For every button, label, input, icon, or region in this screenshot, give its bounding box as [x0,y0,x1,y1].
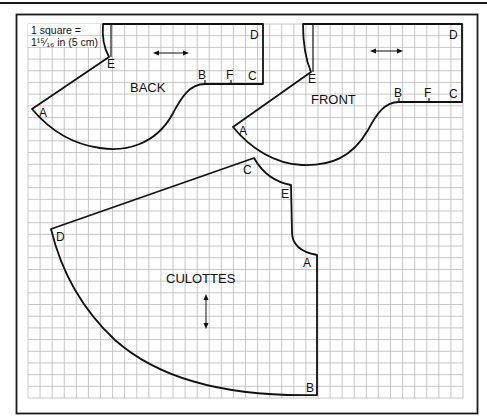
front-piece: FRONT A B C D E F [233,24,462,165]
scale-note-line1: 1 square = [31,24,81,36]
culottes-point-e: E [281,187,289,201]
front-point-b: B [394,86,402,100]
back-point-e: E [107,57,115,71]
back-grain-arrow-icon [153,51,189,56]
front-point-d: D [449,28,458,42]
culottes-point-b: B [306,381,314,395]
back-point-b: B [198,68,206,82]
front-point-c: C [449,87,458,101]
front-point-e: E [308,72,316,86]
culottes-point-c: C [243,163,252,177]
back-point-a: A [39,106,47,120]
culottes-piece: CULOTTES A B C D E [51,158,317,395]
front-label: FRONT [311,92,356,107]
culottes-grain-arrow-icon [204,294,209,329]
front-point-a: A [239,124,247,138]
scale-note-line2: 1¹⁵⁄₁₆ in (5 cm) [31,36,98,48]
scale-note: 1 square = 1¹⁵⁄₁₆ in (5 cm) [28,24,100,48]
front-point-f: F [424,86,431,100]
back-label: BACK [130,80,166,95]
culottes-point-a: A [303,256,311,270]
front-grain-arrow-icon [370,49,403,54]
culottes-point-d: D [56,230,65,244]
back-point-d: D [250,28,259,42]
pattern-diagram: 1 square = 1¹⁵⁄₁₆ in (5 cm) BACK A B C D… [0,0,487,419]
diagram-frame [17,15,478,414]
back-point-f: F [226,68,233,82]
pattern-grid [28,24,463,398]
culottes-label: CULOTTES [166,271,236,286]
back-point-c: C [248,69,257,83]
